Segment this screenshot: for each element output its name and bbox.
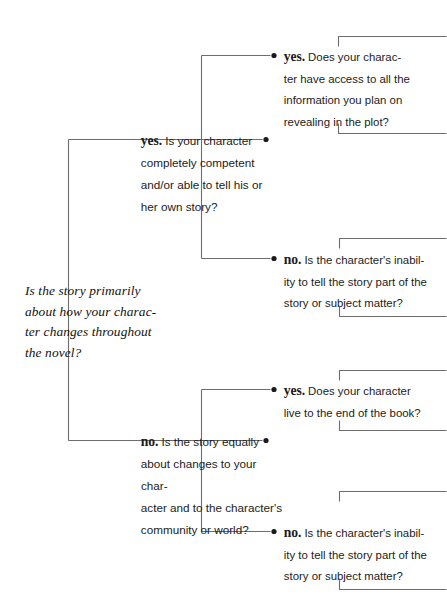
no-leaf-1-line-2: ity to tell the story part of the xyxy=(284,272,436,294)
yes-leaf-1-keyword: yes. xyxy=(284,49,305,64)
yes-leaf-1-line-1: yes. Does your charac- xyxy=(284,46,432,69)
yes-branch-1-line-4: her own story? xyxy=(141,196,277,218)
no-leaf-1-text-1: Is the character's inabil- xyxy=(304,254,424,266)
root-question-line-2: about how your charac- xyxy=(25,302,185,323)
no-branch-1-text-1: Is the story equally xyxy=(162,435,259,448)
root-question-line-1: Is the story primarily xyxy=(25,281,185,302)
root-question-line-4: the novel? xyxy=(25,343,185,364)
bracket-yesleaf2-top xyxy=(340,371,447,381)
yes-branch-1-line-3: and/or able to tell his or xyxy=(141,174,277,196)
yes-branch-1-text-1: Is your character xyxy=(165,134,252,147)
bullet-no-leaf-1 xyxy=(271,256,276,261)
no-leaf-2-text-1: Is the character's inabil- xyxy=(304,527,424,539)
no-leaf-1-line-1: no. Is the character's inabil- xyxy=(284,249,436,272)
yes-leaf-2-text-1: Does your character xyxy=(308,385,411,397)
no-leaf-2-line-3: story or subject matter? xyxy=(284,566,436,588)
yes-leaf-2-keyword: yes. xyxy=(284,383,305,398)
no-branch-1: no. Is the story equally about changes t… xyxy=(141,431,286,541)
no-branch-1-line-2: about changes to your char- xyxy=(141,453,286,497)
yes-leaf-1-text-1: Does your charac- xyxy=(308,51,401,63)
bracket-noleaf1-top xyxy=(340,239,447,249)
yes-leaf-2-line-1: yes. Does your character xyxy=(284,380,436,403)
yes-branch-1-line-1: yes. Is your character xyxy=(141,130,277,152)
no-leaf-2-line-1: no. Is the character's inabil- xyxy=(284,522,436,545)
no-branch-1-line-3: acter and to the character's xyxy=(141,497,286,519)
yes-leaf-1-line-3: information you plan on xyxy=(284,90,432,112)
no-leaf-2-keyword: no. xyxy=(284,525,301,540)
yes-leaf-1-line-4: revealing in the plot? xyxy=(284,112,432,134)
yes-branch-1-line-2: completely competent xyxy=(141,152,277,174)
bracket-noleaf2-top xyxy=(340,492,447,502)
no-branch-1-line-4: community or world? xyxy=(141,519,286,541)
no-leaf-1-line-3: story or subject matter? xyxy=(284,293,436,315)
yes-leaf-1-line-2: ter have access to all the xyxy=(284,69,432,91)
no-leaf-2: no. Is the character's inabil- ity to te… xyxy=(284,522,436,588)
bullet-yes-leaf-2 xyxy=(271,387,276,392)
yes-branch-1: yes. Is your character completely compet… xyxy=(141,130,277,218)
yes-branch-1-keyword: yes. xyxy=(141,133,162,148)
no-leaf-1: no. Is the character's inabil- ity to te… xyxy=(284,249,436,315)
no-branch-1-keyword: no. xyxy=(141,434,158,449)
yes-leaf-1: yes. Does your charac- ter have access t… xyxy=(284,46,432,133)
yes-leaf-2: yes. Does your character live to the end… xyxy=(284,380,436,424)
no-branch-1-line-1: no. Is the story equally xyxy=(141,431,286,453)
no-leaf-2-line-2: ity to tell the story part of the xyxy=(284,545,436,567)
bracket-yesleaf1-top xyxy=(339,37,447,47)
bullet-yes-leaf-1 xyxy=(271,53,276,58)
yes-leaf-2-line-2: live to the end of the book? xyxy=(284,403,436,425)
root-question-line-3: ter changes throughout xyxy=(25,322,185,343)
root-question: Is the story primarily about how your ch… xyxy=(25,281,185,363)
flowchart-page: Is the story primarily about how your ch… xyxy=(0,0,447,608)
no-leaf-1-keyword: no. xyxy=(284,252,301,267)
